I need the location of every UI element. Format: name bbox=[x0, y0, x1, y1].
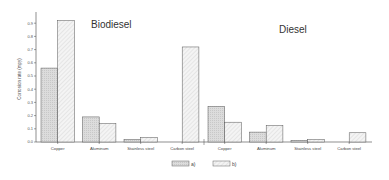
bar-biodiesel-carbon-steel-b bbox=[182, 47, 199, 142]
x-category-label: Copper bbox=[51, 146, 65, 151]
x-category-label: Carbon steel bbox=[170, 146, 194, 151]
bar-diesel-copper-b bbox=[225, 122, 242, 142]
x-category-label: Stainless steel bbox=[294, 146, 321, 151]
x-category-label: Aluminum bbox=[90, 146, 109, 151]
bar-biodiesel-stainless-steel-a bbox=[124, 139, 141, 142]
y-tick-label: 0.4 bbox=[27, 87, 33, 92]
y-tick-label: 0.2 bbox=[27, 113, 33, 118]
bar-diesel-aluminum-b bbox=[266, 126, 283, 143]
bar-diesel-carbon-steel-b bbox=[349, 133, 366, 142]
bar-diesel-stainless-steel-a bbox=[291, 140, 308, 142]
y-tick-label: 0.7 bbox=[27, 47, 33, 52]
bar-biodiesel-copper-b bbox=[58, 21, 75, 142]
x-category-label: Copper bbox=[218, 146, 232, 151]
group-title-diesel: Diesel bbox=[279, 24, 307, 35]
legend-swatch-b bbox=[213, 161, 230, 166]
legend-label-a: a) bbox=[191, 161, 196, 167]
bar-diesel-stainless-steel-b bbox=[308, 139, 325, 142]
bar-biodiesel-aluminum-b bbox=[99, 124, 116, 142]
bar-biodiesel-stainless-steel-b bbox=[141, 137, 158, 142]
legend: a)b) bbox=[172, 161, 237, 167]
legend-swatch-a bbox=[172, 161, 189, 166]
bar-diesel-aluminum-a bbox=[250, 132, 267, 142]
y-tick-label: 0.3 bbox=[27, 100, 33, 105]
bars bbox=[41, 21, 366, 142]
group-title-biodiesel: Biodiesel bbox=[91, 19, 132, 30]
y-tick-label: 0.1 bbox=[27, 126, 33, 131]
corrosion-rate-bar-chart: 0.00.10.20.30.40.50.60.70.80.9Corrosion … bbox=[0, 0, 389, 180]
bar-biodiesel-aluminum-a bbox=[83, 117, 100, 142]
y-axis-label: Corrosion rate (mpy) bbox=[17, 58, 22, 100]
y-tick-label: 0.5 bbox=[27, 73, 33, 78]
y-tick-label: 0.9 bbox=[27, 21, 33, 26]
x-category-label: Stainless steel bbox=[127, 146, 154, 151]
legend-label-b: b) bbox=[232, 161, 237, 167]
bar-biodiesel-copper-a bbox=[41, 68, 58, 142]
y-tick-label: 0.0 bbox=[27, 139, 33, 144]
x-category-label: Carbon steel bbox=[337, 146, 361, 151]
y-tick-label: 0.8 bbox=[27, 34, 33, 39]
bar-diesel-copper-a bbox=[208, 106, 225, 142]
x-category-label: Aluminum bbox=[257, 146, 276, 151]
y-tick-label: 0.6 bbox=[27, 60, 33, 65]
